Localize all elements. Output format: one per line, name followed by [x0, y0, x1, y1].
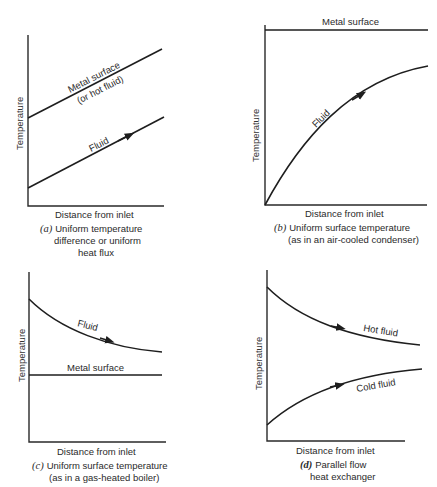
panel-c-axes [29, 272, 166, 442]
panel-d-hot-fluid-arrow-icon [331, 326, 341, 328]
panel-a-fluid-line [28, 117, 164, 188]
panel-d-axes [267, 270, 405, 441]
panel-a: Temperature Metal surface (or hot fluid)… [14, 35, 164, 258]
panel-d-cold-fluid-arrow-icon [330, 385, 340, 387]
panel-d-caption-line-2: heat exchanger [310, 471, 376, 482]
panel-b-fluid-curve [265, 66, 428, 205]
panel-c-fluid-label: Fluid [77, 317, 100, 333]
panel-a-x-axis-label: Distance from inlet [55, 209, 134, 220]
panel-b-axes [265, 25, 427, 205]
panel-b-caption-line-1: (b)Uniform surface temperature [274, 222, 410, 234]
panel-d-cold-fluid-curve [267, 369, 422, 425]
panel-c-metal-surface-label: Metal surface [67, 362, 124, 373]
panel-a-axes [28, 35, 164, 206]
panel-a-caption-line-1: (a)Uniform temperature [40, 223, 142, 235]
panel-a-y-axis-label: Temperature [14, 97, 25, 150]
panel-b-caption-line-2: (as in an air-cooled condenser) [288, 234, 419, 245]
panel-a-caption-line-2: difference or uniform [54, 235, 141, 246]
panel-c-y-axis-label: Temperature [16, 329, 27, 382]
panel-c-x-axis-label: Distance from inlet [57, 446, 136, 457]
panel-b-x-axis-label: Distance from inlet [305, 208, 384, 219]
heat-transfer-diagram: Temperature Metal surface (or hot fluid)… [0, 0, 437, 487]
panel-c-caption-line-2: (as in a gas-heated boiler) [49, 472, 159, 483]
panel-d-hot-fluid-label: Hot fluid [363, 322, 399, 338]
panel-c-caption-line-1: (c)Uniform surface temperature [32, 460, 168, 472]
panel-d-y-axis-label: Temperature [253, 337, 264, 390]
panel-b-metal-surface-label: Metal surface [322, 16, 379, 27]
panel-d-x-axis-label: Distance from inlet [296, 445, 375, 456]
panel-c: Temperature Fluid Metal surface Distance… [16, 272, 168, 483]
panel-d: Temperature Hot fluid Cold fluid Distanc… [253, 270, 422, 482]
panel-d-caption-line-1: (d)Parallel flow [300, 459, 367, 471]
panel-b: Temperature Metal surface Fluid Distance… [250, 16, 428, 245]
panel-a-caption-line-3: heat flux [78, 247, 114, 258]
panel-a-metal-surface-line [28, 49, 162, 118]
panel-b-y-axis-label: Temperature [250, 109, 261, 162]
panel-a-fluid-arrow-icon [118, 135, 130, 141]
